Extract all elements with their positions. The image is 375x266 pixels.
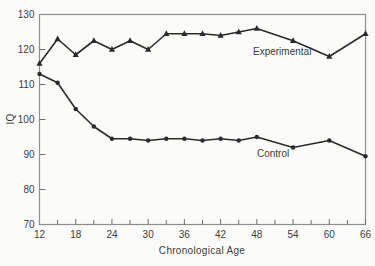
marker-dot-control bbox=[74, 107, 78, 111]
plot-frame bbox=[40, 15, 366, 225]
series-label-control: Control bbox=[257, 148, 289, 159]
x-tick-label: 54 bbox=[287, 229, 299, 240]
chart-canvas: 70809010011012013012182430364248546066Ex… bbox=[0, 0, 375, 266]
x-tick-label: 42 bbox=[215, 229, 227, 240]
marker-dot-control bbox=[200, 138, 204, 142]
y-tick-label: 110 bbox=[19, 79, 35, 90]
marker-dot-control bbox=[110, 137, 114, 141]
y-tick-label: 80 bbox=[23, 184, 35, 195]
marker-dot-control bbox=[55, 81, 59, 85]
marker-dot-control bbox=[291, 145, 295, 149]
marker-triangle-experimental bbox=[254, 25, 260, 31]
marker-dot-control bbox=[182, 137, 186, 141]
x-tick-label: 12 bbox=[34, 229, 46, 240]
series-line-control bbox=[40, 74, 366, 156]
x-axis-title: Chronological Age bbox=[39, 245, 365, 257]
x-tick-label: 60 bbox=[324, 229, 336, 240]
iq-line-chart-figure: 70809010011012013012182430364248546066Ex… bbox=[0, 0, 375, 266]
marker-triangle-experimental bbox=[55, 36, 61, 42]
marker-triangle-experimental bbox=[127, 37, 133, 43]
x-tick-label: 30 bbox=[143, 229, 155, 240]
marker-dot-control bbox=[146, 138, 150, 142]
y-axis-title: IQ bbox=[5, 104, 17, 134]
marker-dot-control bbox=[218, 137, 222, 141]
marker-dot-control bbox=[363, 154, 367, 158]
marker-dot-control bbox=[92, 124, 96, 128]
marker-dot-control bbox=[164, 137, 168, 141]
x-tick-label: 36 bbox=[179, 229, 191, 240]
x-tick-label: 24 bbox=[106, 229, 118, 240]
marker-dot-control bbox=[327, 138, 331, 142]
y-tick-label: 100 bbox=[18, 114, 35, 125]
x-tick-label: 48 bbox=[251, 229, 263, 240]
y-tick-label: 90 bbox=[23, 149, 35, 160]
marker-dot-control bbox=[237, 138, 241, 142]
marker-dot-control bbox=[37, 72, 41, 76]
x-tick-label: 18 bbox=[70, 229, 82, 240]
marker-dot-control bbox=[255, 135, 259, 139]
x-tick-label: 66 bbox=[360, 229, 372, 240]
marker-triangle-experimental bbox=[91, 37, 97, 43]
y-tick-label: 130 bbox=[18, 9, 35, 20]
marker-dot-control bbox=[128, 137, 132, 141]
y-tick-label: 120 bbox=[18, 44, 35, 55]
series-label-experimental: Experimental bbox=[253, 46, 311, 57]
marker-triangle-experimental bbox=[362, 30, 368, 36]
